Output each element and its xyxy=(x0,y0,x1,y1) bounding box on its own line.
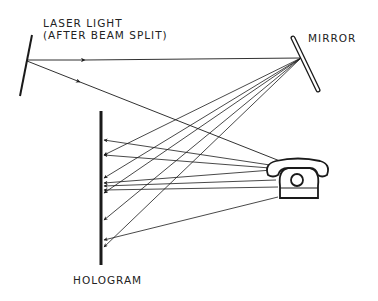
object-rays xyxy=(104,140,278,240)
laser-label-line1: LASER LIGHT xyxy=(43,17,168,29)
reference-beam xyxy=(27,58,301,60)
diagram-canvas xyxy=(0,0,378,301)
mirror xyxy=(293,38,318,90)
laser-label: LASER LIGHT (AFTER BEAM SPLIT) xyxy=(43,17,168,41)
mirror-label: MIRROR xyxy=(308,32,356,44)
hologram-diagram: LASER LIGHT (AFTER BEAM SPLIT) MIRROR HO… xyxy=(0,0,378,301)
mirror-rays xyxy=(104,58,301,247)
hologram-label: HOLOGRAM xyxy=(73,274,142,286)
laser-source-plate xyxy=(20,35,32,96)
telephone-icon xyxy=(267,159,328,199)
laser-label-line2: (AFTER BEAM SPLIT) xyxy=(43,29,168,41)
